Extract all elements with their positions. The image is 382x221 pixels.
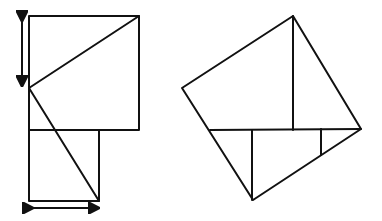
cut-line-lower <box>29 88 99 201</box>
left-panel <box>22 16 139 208</box>
tilted-square <box>182 16 361 200</box>
horizontal-cut <box>210 129 361 130</box>
right-panel <box>182 16 361 200</box>
cut-line-upper <box>29 16 139 88</box>
diagram-canvas: Dissection proof of the Pythagorean theo… <box>0 0 382 221</box>
pythagoras-dissection-diagram <box>0 0 382 221</box>
small-square <box>29 130 99 201</box>
